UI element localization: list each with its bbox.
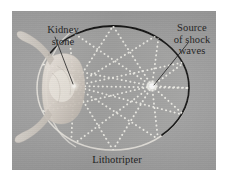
label-lithotripter: Lithotripter — [74, 154, 160, 166]
arm-lower — [15, 109, 52, 143]
label-source-line1: Source — [162, 22, 216, 34]
label-source-line3: waves — [162, 45, 216, 57]
label-lithotripter-line1: Lithotripter — [74, 154, 160, 166]
label-kidney-stone-line2: stone — [37, 36, 89, 48]
label-source-line2: of shock — [162, 34, 216, 46]
shock-source-marker — [149, 83, 154, 88]
label-kidney-stone: Kidney stone — [37, 24, 89, 47]
diagram-plate: Kidney stone Source of shock waves Litho… — [12, 11, 216, 170]
label-source-of-shock-waves: Source of shock waves — [162, 22, 216, 57]
screenshot-root: Kidney stone Source of shock waves Litho… — [0, 0, 226, 179]
kidney-stone-marker — [72, 84, 76, 88]
label-kidney-stone-line1: Kidney — [37, 24, 89, 36]
